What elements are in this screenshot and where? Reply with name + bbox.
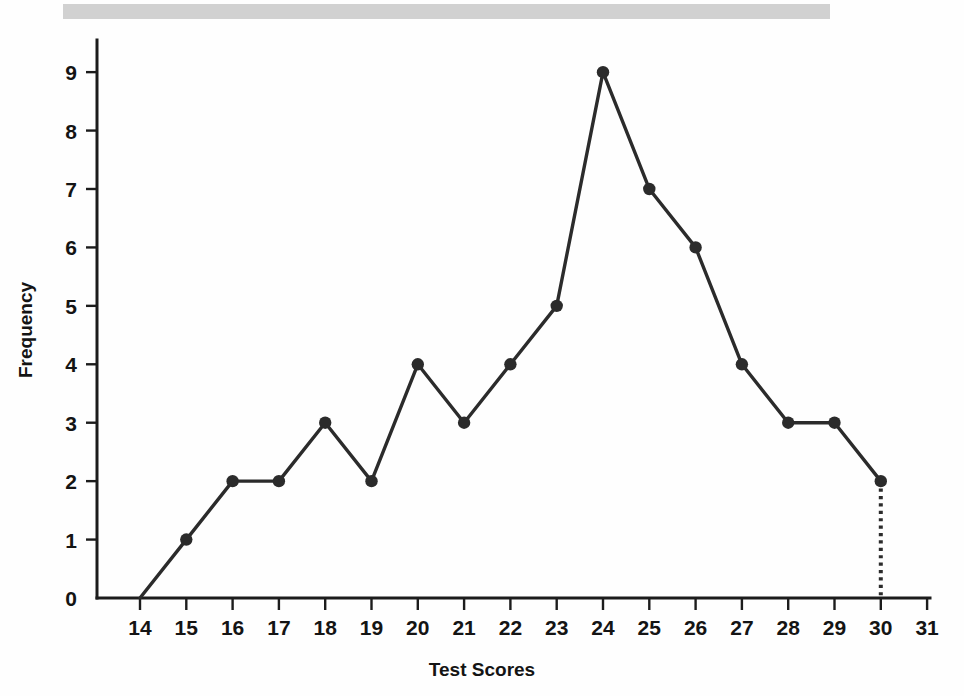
data-point-26 xyxy=(689,241,701,253)
data-point-30 xyxy=(875,475,887,487)
data-point-15 xyxy=(180,533,192,545)
y-tick-label-0: 0 xyxy=(65,587,77,610)
x-axis-ticks xyxy=(140,598,927,610)
x-tick-label-31: 31 xyxy=(915,616,939,639)
x-tick-labels: 141516171819202122232425262728293031 xyxy=(128,616,939,639)
x-tick-label-25: 25 xyxy=(638,616,662,639)
data-point-18 xyxy=(319,417,331,429)
x-tick-label-20: 20 xyxy=(406,616,429,639)
x-tick-label-22: 22 xyxy=(499,616,522,639)
y-tick-label-3: 3 xyxy=(65,412,77,435)
y-axis-title: Frequency xyxy=(15,282,36,379)
y-tick-labels: 0123456789 xyxy=(65,61,77,610)
frequency-polygon-chart: 0123456789 14151617181920212223242526272… xyxy=(0,0,964,696)
data-point-24 xyxy=(597,66,609,78)
data-point-25 xyxy=(643,183,655,195)
x-tick-label-17: 17 xyxy=(267,616,290,639)
x-tick-label-23: 23 xyxy=(545,616,568,639)
x-tick-label-19: 19 xyxy=(360,616,383,639)
x-tick-label-27: 27 xyxy=(730,616,753,639)
x-tick-label-15: 15 xyxy=(175,616,199,639)
data-point-27 xyxy=(736,358,748,370)
x-tick-label-24: 24 xyxy=(591,616,615,639)
x-tick-label-14: 14 xyxy=(128,616,152,639)
data-point-29 xyxy=(828,417,840,429)
x-axis-title: Test Scores xyxy=(429,659,535,680)
x-tick-label-26: 26 xyxy=(684,616,707,639)
x-tick-label-30: 30 xyxy=(869,616,892,639)
data-point-20 xyxy=(412,358,424,370)
x-tick-label-16: 16 xyxy=(221,616,244,639)
x-tick-label-21: 21 xyxy=(452,616,476,639)
y-tick-label-5: 5 xyxy=(65,295,77,318)
y-tick-label-9: 9 xyxy=(65,61,77,84)
frequency-line xyxy=(140,72,881,598)
data-point-17 xyxy=(273,475,285,487)
x-tick-label-18: 18 xyxy=(314,616,338,639)
x-tick-label-28: 28 xyxy=(777,616,801,639)
y-tick-label-6: 6 xyxy=(65,236,77,259)
data-point-21 xyxy=(458,417,470,429)
y-tick-label-2: 2 xyxy=(65,470,77,493)
data-point-16 xyxy=(226,475,238,487)
data-point-19 xyxy=(365,475,377,487)
y-tick-label-7: 7 xyxy=(65,178,77,201)
y-tick-label-4: 4 xyxy=(65,353,77,376)
y-axis-ticks xyxy=(86,72,97,539)
y-tick-label-8: 8 xyxy=(65,120,77,143)
page-canvas: 0123456789 14151617181920212223242526272… xyxy=(0,0,964,696)
y-tick-label-1: 1 xyxy=(65,529,77,552)
data-point-22 xyxy=(504,358,516,370)
x-tick-label-29: 29 xyxy=(823,616,846,639)
data-point-23 xyxy=(551,300,563,312)
data-point-28 xyxy=(782,417,794,429)
chart-svg: 0123456789 14151617181920212223242526272… xyxy=(0,0,964,696)
